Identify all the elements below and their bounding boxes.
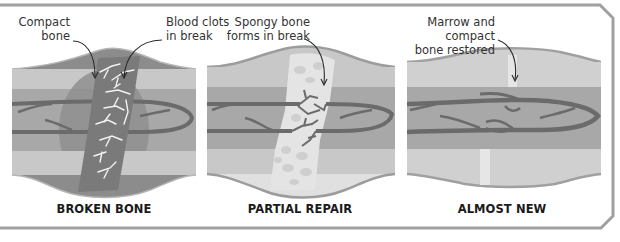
broken-bone-illustration [12,48,196,197]
partial-repair-illustration [207,47,395,198]
almost-new-illustration [407,48,601,187]
stage-label-almost-new: ALMOST NEW [407,202,597,216]
callout-line: forms in break [210,29,310,43]
callout-line: Spongy bone [210,15,310,29]
stage-label-broken-bone: BROKEN BONE [9,202,199,216]
callout-line: bone restored [385,43,495,57]
callout-line: Marrow and compact [385,15,495,43]
callout-marrow-restored: Marrow and compact bone restored [385,15,495,57]
callout-compact-bone: Compact bone [18,15,70,43]
callout-line: bone [18,29,70,43]
callout-line: Compact [18,15,70,29]
stage-label-partial-repair: PARTIAL REPAIR [205,202,395,216]
callout-spongy-bone: Spongy bone forms in break [210,15,310,43]
